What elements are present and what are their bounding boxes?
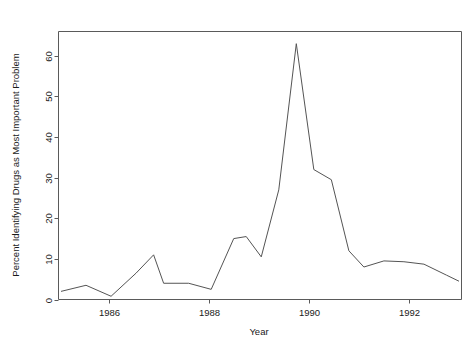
y-tick-label: 20 [43,213,54,224]
y-tick-label: 40 [43,132,54,143]
y-tick-label: 0 [43,298,54,303]
y-tick-label: 60 [43,51,54,62]
chart-figure: 0102030405060 1986198819901992 Year Perc… [0,0,475,350]
y-tick-label: 30 [43,173,54,184]
y-axis-title: Percent Identifying Drugs as Most Import… [10,53,21,276]
y-tick-label: 10 [43,254,54,265]
x-tick-label: 1988 [199,307,220,318]
x-axis-title: Year [249,326,268,337]
x-tick-label: 1990 [299,307,320,318]
y-tick-label: 50 [43,91,54,102]
x-tick-label: 1986 [99,307,120,318]
x-tick-label: 1992 [399,307,420,318]
line-chart: 0102030405060 1986198819901992 Year Perc… [0,0,475,350]
chart-background [0,0,475,350]
